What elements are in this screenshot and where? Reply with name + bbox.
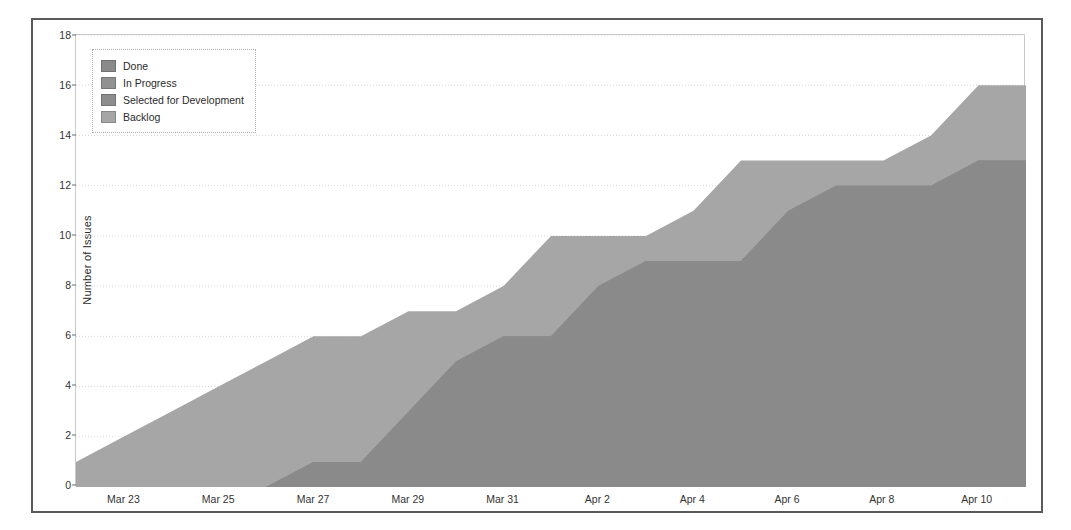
y-tick-label: 12 xyxy=(59,179,71,191)
x-tick-label: Apr 10 xyxy=(961,493,992,505)
legend-label: In Progress xyxy=(123,77,177,89)
x-tick-label: Mar 25 xyxy=(202,493,235,505)
legend-swatch-icon xyxy=(101,111,116,123)
legend-item-done[interactable]: Done xyxy=(101,57,244,74)
chart-figure: Number of Issues 024681012141618 Mar 23M… xyxy=(31,18,1043,513)
legend-item-in-progress[interactable]: In Progress xyxy=(101,74,244,91)
x-tick-label: Mar 29 xyxy=(391,493,424,505)
legend-label: Selected for Development xyxy=(123,94,244,106)
legend-label: Done xyxy=(123,60,148,72)
legend-swatch-icon xyxy=(101,77,116,89)
x-tick-label: Apr 8 xyxy=(869,493,894,505)
x-tick-label: Mar 31 xyxy=(486,493,519,505)
legend-swatch-icon xyxy=(101,94,116,106)
y-tick-label: 14 xyxy=(59,129,71,141)
x-tick-label: Apr 2 xyxy=(585,493,610,505)
plot-area: Number of Issues 024681012141618 Mar 23M… xyxy=(75,34,1025,486)
chart-legend[interactable]: DoneIn ProgressSelected for DevelopmentB… xyxy=(92,49,256,133)
x-tick-label: Apr 4 xyxy=(680,493,705,505)
area-series-group xyxy=(76,85,1026,487)
y-tick-label: 18 xyxy=(59,29,71,41)
y-tick-label: 4 xyxy=(65,379,71,391)
x-tick-label: Apr 6 xyxy=(774,493,799,505)
x-tick-label: Mar 27 xyxy=(297,493,330,505)
y-tick-label: 16 xyxy=(59,79,71,91)
legend-label: Backlog xyxy=(123,111,160,123)
legend-swatch-icon xyxy=(101,60,116,72)
y-tick-label: 0 xyxy=(65,479,71,491)
x-tick-label: Mar 23 xyxy=(107,493,140,505)
y-tick-label: 6 xyxy=(65,329,71,341)
y-tick-label: 10 xyxy=(59,229,71,241)
legend-item-backlog[interactable]: Backlog xyxy=(101,108,244,125)
y-tick-label: 2 xyxy=(65,429,71,441)
y-tick-label: 8 xyxy=(65,279,71,291)
legend-item-selected-for-development[interactable]: Selected for Development xyxy=(101,91,244,108)
